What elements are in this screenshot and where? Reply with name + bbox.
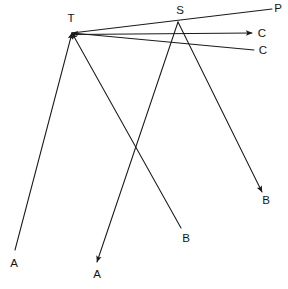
endpoint-label-A-bottom: A: [93, 268, 101, 280]
ray-T-through-S-P: [72, 9, 272, 33]
ray-S-to-B-right: [178, 22, 262, 192]
endpoint-label-P-top: P: [274, 2, 282, 14]
ray-diagram-svg: T S A A B B P C C: [0, 0, 288, 289]
ray-S-to-C-upper: [72, 33, 252, 35]
endpoint-label-A-left: A: [10, 257, 18, 269]
ray-diagram-canvas: T S A A B B P C C: [0, 0, 288, 289]
endpoint-label-C-lower: C: [259, 44, 267, 56]
vertex-label-S: S: [176, 4, 184, 16]
ray-S-to-A-bottom: [97, 22, 178, 262]
rays-group: [15, 9, 272, 262]
endpoint-label-C-upper: C: [258, 27, 266, 39]
endpoint-label-B-right: B: [262, 194, 270, 206]
labels-group: T S A A B B P C C: [10, 2, 282, 280]
endpoint-label-B-lower: B: [182, 232, 190, 244]
ray-C-lower-to-T: [72, 33, 254, 50]
vertex-label-T: T: [67, 12, 74, 24]
ray-A-left-to-T: [15, 33, 72, 250]
